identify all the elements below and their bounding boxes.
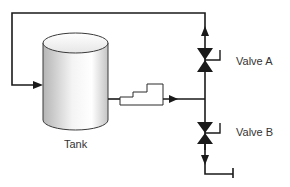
valve-a-label: Valve A: [236, 55, 273, 67]
flow-arrow-icon: [169, 95, 178, 103]
stepped-flow-element: [120, 84, 163, 105]
valve-a[interactable]: [197, 48, 220, 72]
drain-pipe: [205, 144, 233, 178]
valve-b[interactable]: [197, 122, 220, 144]
downward-arrow-icon: [201, 155, 209, 165]
tank-label: Tank: [64, 138, 87, 150]
tank: [43, 33, 108, 130]
upward-arrow-icon: [201, 26, 209, 36]
valve-b-label: Valve B: [236, 126, 273, 138]
process-diagram: [0, 0, 290, 187]
tank-inlet-arrow-icon: [33, 81, 43, 89]
